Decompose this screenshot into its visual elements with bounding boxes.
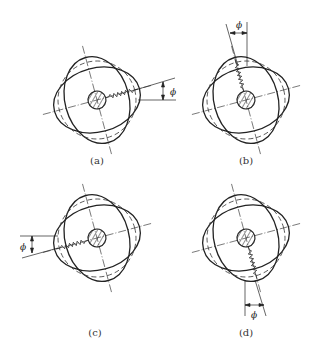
panel-label-d: (d) [239, 327, 253, 338]
phi-symbol-a: ϕ [170, 87, 176, 97]
panel-c [28, 169, 165, 306]
panel-label-c: (c) [88, 327, 101, 338]
panel-label-a: (a) [90, 155, 104, 166]
diagram-canvas: ϕ ϕ ϕ ϕ [0, 0, 314, 355]
panel-label-b: (b) [239, 155, 253, 166]
phi-symbol-c: ϕ [20, 242, 26, 252]
phi-symbol-b: ϕ [236, 20, 242, 30]
panel-b [177, 31, 314, 168]
panel-d [177, 169, 314, 306]
phi-symbol-d: ϕ [251, 310, 257, 320]
